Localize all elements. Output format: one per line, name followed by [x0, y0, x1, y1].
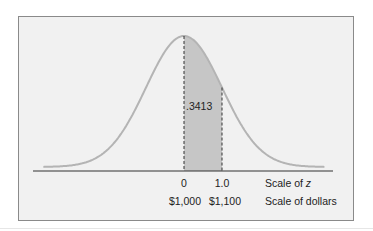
area-label: .3413 [185, 100, 213, 112]
dollar-tick-1: $1,100 [209, 195, 241, 207]
dollar-scale-label: Scale of dollars [265, 195, 337, 207]
z-scale-label: Scale of z [265, 177, 311, 189]
z-scale-prefix: Scale of [265, 177, 306, 189]
dollar-tick-0: $1,000 [169, 195, 201, 207]
z-scale-var: z [306, 177, 311, 189]
z-tick-1: 1.0 [215, 177, 230, 189]
z-tick-0: 0 [181, 177, 187, 189]
